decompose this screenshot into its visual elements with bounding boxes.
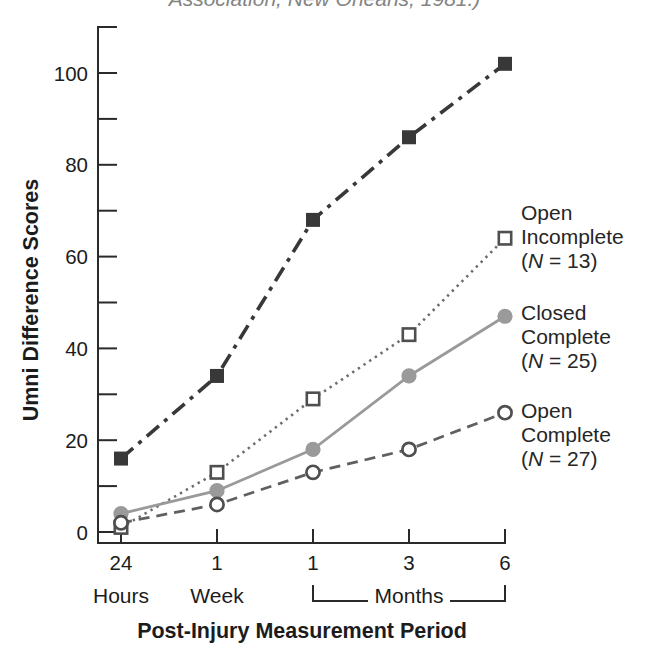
data-point bbox=[210, 498, 223, 511]
x-axis-title: Post-Injury Measurement Period bbox=[0, 619, 604, 644]
data-point bbox=[307, 393, 319, 405]
series-label-open-complete: OpenComplete(N = 27) bbox=[521, 399, 611, 471]
y-tick-label: 60 bbox=[65, 245, 88, 268]
series-line-closed-complete bbox=[121, 316, 505, 513]
y-tick-label: 0 bbox=[77, 521, 88, 544]
x-tick-label: 1 bbox=[307, 551, 318, 574]
data-point bbox=[114, 452, 128, 466]
data-point bbox=[497, 309, 512, 324]
x-tick-label: 24 bbox=[110, 551, 133, 574]
series-label-line: Closed bbox=[521, 301, 611, 325]
data-point bbox=[114, 516, 127, 529]
x-tick-labels: 241136 bbox=[110, 551, 511, 574]
x-unit-row: HoursWeekMonths bbox=[93, 584, 443, 607]
series-n-label: (N = 13) bbox=[521, 249, 624, 273]
series-markers-open-incomplete bbox=[115, 232, 511, 534]
y-tick-labels: 100806040200 bbox=[54, 62, 88, 544]
data-point bbox=[499, 232, 511, 244]
axis-frame bbox=[98, 27, 505, 543]
y-tick-label: 40 bbox=[65, 337, 88, 360]
x-tick-label: 3 bbox=[403, 551, 414, 574]
data-point bbox=[305, 442, 320, 457]
data-point bbox=[211, 466, 223, 478]
data-point bbox=[403, 328, 415, 340]
data-point bbox=[210, 369, 224, 383]
series-label-line: Open bbox=[521, 201, 624, 225]
series-label-closed-complete: ClosedComplete(N = 25) bbox=[521, 301, 611, 373]
series-line-open-incomplete bbox=[121, 238, 505, 527]
data-point bbox=[306, 213, 320, 227]
y-tick-label: 80 bbox=[65, 153, 88, 176]
y-tick-label: 100 bbox=[54, 62, 88, 85]
series-label-line: Complete bbox=[521, 423, 611, 447]
data-point bbox=[306, 466, 319, 479]
series-n-label: (N = 25) bbox=[521, 349, 611, 373]
series-n-label: (N = 27) bbox=[521, 447, 611, 471]
months-label: Months bbox=[375, 584, 444, 607]
data-point bbox=[402, 130, 416, 144]
data-point bbox=[209, 483, 224, 498]
data-point bbox=[402, 443, 415, 456]
series-label-line: Open bbox=[521, 399, 611, 423]
axes bbox=[98, 27, 505, 543]
x-tick-label: 6 bbox=[499, 551, 510, 574]
data-point bbox=[401, 368, 416, 383]
series-label-line: Incomplete bbox=[521, 225, 624, 249]
data-point bbox=[498, 406, 511, 419]
series-label-line: Complete bbox=[521, 325, 611, 349]
week-label: Week bbox=[190, 584, 244, 607]
x-tick-label: 1 bbox=[211, 551, 222, 574]
y-tick-label: 20 bbox=[65, 429, 88, 452]
hours-label: Hours bbox=[93, 584, 149, 607]
series-markers-open-complete bbox=[114, 406, 511, 529]
figure: Association, New Orleans, 1981.) Umni Di… bbox=[0, 0, 649, 659]
series-label-open-incomplete: OpenIncomplete(N = 13) bbox=[521, 201, 624, 273]
data-point bbox=[498, 57, 512, 71]
